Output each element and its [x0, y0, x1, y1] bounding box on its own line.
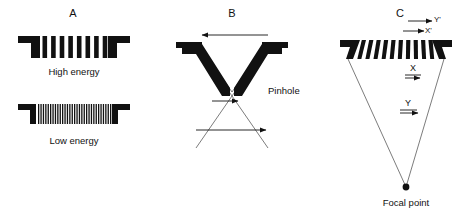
pinhole-label: Pinhole [268, 85, 300, 96]
label-x-prime: X' [425, 26, 432, 35]
panel-b-letter: B [228, 7, 235, 19]
label-x: X [410, 63, 416, 73]
label-y-prime: Y' [434, 15, 441, 24]
pinhole-top-plate-right [262, 42, 288, 48]
high-energy-caption: High energy [48, 66, 99, 77]
label-y: Y [405, 98, 411, 108]
panel-a-letter: A [69, 7, 77, 19]
focal-point-label: Focal point [383, 197, 430, 208]
panel-c-letter: C [396, 7, 404, 19]
focal-point-dot [403, 184, 410, 191]
collimator-figure: A High energy [0, 0, 464, 211]
low-energy-caption: Low energy [49, 135, 98, 146]
pinhole-top-plate-left [176, 42, 202, 48]
collimator-diagram-svg: A High energy [0, 0, 464, 211]
